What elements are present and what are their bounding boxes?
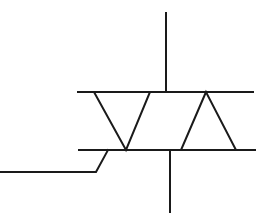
triac-diagram bbox=[0, 0, 267, 214]
diode-triangle-down-icon bbox=[94, 92, 150, 150]
triac-symbol bbox=[0, 0, 267, 214]
gate-lead bbox=[0, 150, 108, 172]
diode-triangle-up-icon bbox=[181, 92, 236, 150]
